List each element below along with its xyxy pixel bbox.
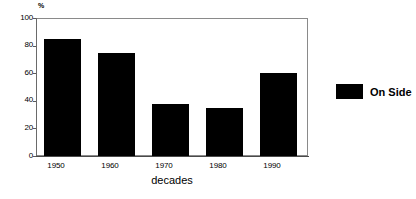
bar-1960 [98, 53, 135, 157]
y-axis-unit-label: % [38, 2, 44, 9]
y-tick-label-80: 80 [3, 41, 33, 49]
x-tick-label-1990: 1990 [246, 161, 298, 170]
chart-legend: On Side [336, 84, 412, 99]
x-axis-line [36, 156, 309, 157]
y-axis: 100 80 60 40 20 0 [0, 0, 33, 199]
y-tick-label-60: 60 [3, 69, 33, 77]
bar-chart-figure: 100 80 60 40 20 0 % 1950 1960 1970 1980 … [0, 0, 416, 199]
y-tick-label-20: 20 [3, 124, 33, 132]
legend-swatch-on-side [336, 84, 363, 99]
bar-1970 [152, 104, 189, 156]
legend-label-on-side: On Side [370, 86, 412, 98]
y-tick-label-100: 100 [3, 14, 33, 22]
bar-1990 [260, 73, 297, 156]
x-tick-label-1980: 1980 [192, 161, 244, 170]
bar-1980 [206, 108, 243, 156]
x-tick-label-1960: 1960 [84, 161, 136, 170]
x-tick-label-1970: 1970 [138, 161, 190, 170]
y-tick-label-0: 0 [3, 152, 33, 160]
bar-1950 [44, 39, 81, 156]
y-tick-label-40: 40 [3, 96, 33, 104]
bars-container [37, 18, 307, 156]
x-axis-title: decades [36, 174, 308, 187]
x-tick-label-1950: 1950 [30, 161, 82, 170]
